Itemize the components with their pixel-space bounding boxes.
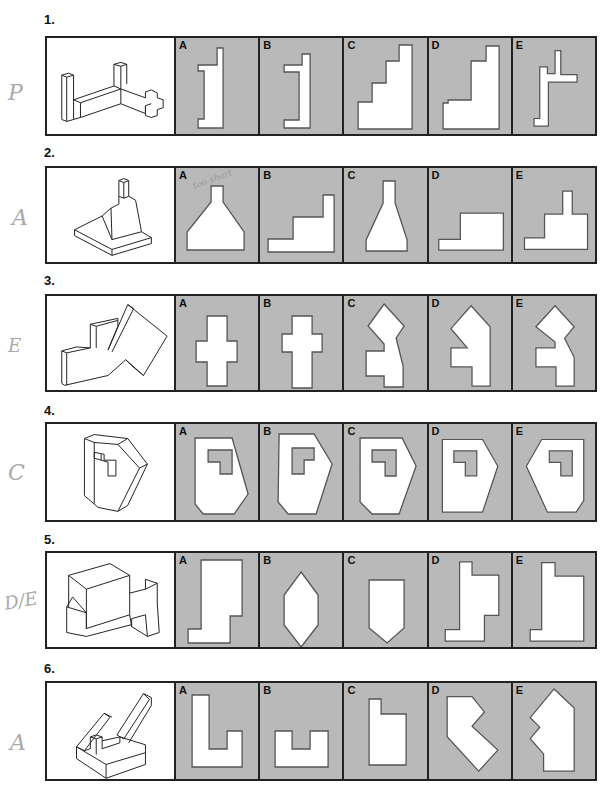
isometric-figure-1 bbox=[47, 38, 176, 134]
option-6-b[interactable]: B bbox=[260, 683, 344, 779]
option-1-b[interactable]: B bbox=[260, 38, 344, 134]
question-number-2: 2. bbox=[44, 145, 55, 160]
option-6-e[interactable]: E bbox=[513, 683, 595, 779]
question-number-5: 5. bbox=[44, 532, 55, 547]
option-5-b[interactable]: B bbox=[260, 553, 344, 647]
question-row-6: A B C D E bbox=[45, 681, 597, 781]
option-2-e[interactable]: E bbox=[513, 168, 595, 262]
option-3-b[interactable]: B bbox=[260, 296, 344, 390]
handwritten-answer-3: E bbox=[8, 335, 21, 356]
option-1-e[interactable]: E bbox=[513, 38, 595, 134]
isometric-figure-4 bbox=[47, 424, 176, 520]
option-2-a[interactable]: A too short bbox=[176, 168, 260, 262]
isometric-figure-2 bbox=[47, 168, 176, 262]
question-row-3: A B C D E bbox=[45, 294, 597, 392]
option-3-a[interactable]: A bbox=[176, 296, 260, 390]
option-5-c[interactable]: C bbox=[344, 553, 428, 647]
option-3-e[interactable]: E bbox=[513, 296, 595, 390]
option-1-d[interactable]: D bbox=[429, 38, 513, 134]
option-5-e[interactable]: E bbox=[513, 553, 595, 647]
handwritten-answer-6: A bbox=[10, 730, 26, 755]
isometric-figure-5 bbox=[47, 553, 176, 647]
option-2-d[interactable]: D bbox=[429, 168, 513, 262]
option-5-d[interactable]: D bbox=[429, 553, 513, 647]
option-6-d[interactable]: D bbox=[429, 683, 513, 779]
question-row-2: A too short B C D E bbox=[45, 166, 597, 264]
option-2-c[interactable]: C bbox=[344, 168, 428, 262]
option-4-a[interactable]: A bbox=[176, 424, 260, 520]
option-3-d[interactable]: D bbox=[429, 296, 513, 390]
question-number-6: 6. bbox=[44, 661, 55, 676]
option-4-c[interactable]: C bbox=[344, 424, 428, 520]
handwritten-answer-2: A bbox=[12, 205, 28, 230]
option-4-e[interactable]: E bbox=[513, 424, 595, 520]
handwritten-answer-5: D/E bbox=[2, 587, 39, 614]
question-row-4: A B C D E bbox=[45, 422, 597, 522]
option-5-a[interactable]: A bbox=[176, 553, 260, 647]
question-number-4: 4. bbox=[44, 403, 55, 418]
question-row-5: A B C D E bbox=[45, 551, 597, 649]
question-row-1: A B C D E bbox=[45, 36, 597, 136]
question-number-1: 1. bbox=[44, 12, 55, 27]
option-4-b[interactable]: B bbox=[260, 424, 344, 520]
isometric-figure-3 bbox=[47, 296, 176, 390]
question-number-3: 3. bbox=[44, 273, 55, 288]
option-4-d[interactable]: D bbox=[429, 424, 513, 520]
option-1-a[interactable]: A bbox=[176, 38, 260, 134]
handwritten-answer-4: C bbox=[8, 460, 25, 485]
isometric-figure-6 bbox=[47, 683, 176, 779]
option-2-b[interactable]: B bbox=[260, 168, 344, 262]
option-6-a[interactable]: A bbox=[176, 683, 260, 779]
option-1-c[interactable]: C bbox=[344, 38, 428, 134]
option-3-c[interactable]: C bbox=[344, 296, 428, 390]
option-6-c[interactable]: C bbox=[344, 683, 428, 779]
handwritten-answer-1: P bbox=[8, 80, 23, 105]
